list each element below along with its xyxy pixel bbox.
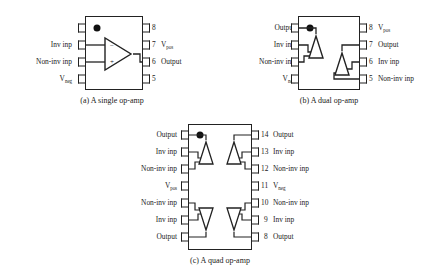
caption-quad: (c) A quad op-amp bbox=[190, 257, 250, 265]
pin-label-right-7: Vpos bbox=[161, 41, 173, 48]
pin-label-left-6: Inv inp bbox=[156, 216, 177, 223]
pin-number-right-8: 8 bbox=[264, 233, 268, 240]
pin-label-right-11: Vneg bbox=[273, 182, 285, 189]
orientation-dot-icon bbox=[307, 25, 314, 32]
pin-tab-3 bbox=[78, 58, 85, 67]
pin-tab-10 bbox=[252, 199, 259, 208]
pin-tab-8 bbox=[252, 233, 259, 242]
pin-number-right-8: 8 bbox=[369, 24, 373, 31]
pin-label-left-4: Vneg bbox=[60, 75, 72, 82]
pin-number-right-14: 14 bbox=[261, 131, 268, 138]
pin-tab-8 bbox=[143, 24, 150, 33]
pin-tab-2 bbox=[291, 41, 298, 50]
pin-label-right-5: Non-inv inp bbox=[378, 75, 414, 82]
pin-tab-2 bbox=[78, 41, 85, 50]
caption-single: (a) A single op-amp bbox=[80, 97, 143, 105]
pin-label-left-2: Inv inp bbox=[156, 148, 177, 155]
pin-tab-9 bbox=[252, 216, 259, 225]
pin-label-right-6: Inv inp bbox=[378, 58, 399, 65]
pin-label-right-6: Output bbox=[161, 58, 182, 65]
pin-label-left-3: Non-inv inp bbox=[259, 58, 295, 65]
pin-number-right-10: 10 bbox=[261, 199, 268, 206]
chip-body bbox=[188, 124, 252, 250]
pin-tab-13 bbox=[252, 148, 259, 157]
orientation-dot-icon bbox=[94, 25, 101, 32]
pin-number-right-5: 5 bbox=[369, 75, 373, 82]
pin-label-right-13: Inv inp bbox=[273, 148, 294, 155]
pin-number-right-7: 7 bbox=[152, 41, 156, 48]
pin-label-left-1: Output bbox=[156, 131, 177, 138]
pin-label-right-14: Output bbox=[273, 131, 294, 138]
pin-tab-3 bbox=[291, 58, 298, 67]
pin-tab-7 bbox=[143, 41, 150, 50]
pin-label-right-7: Output bbox=[378, 41, 399, 48]
package-dual-op-amp: Output Inv inp Non-inv inp Vneg 1 2 3 4 … bbox=[215, 0, 429, 110]
pin-tab-6 bbox=[360, 58, 367, 67]
pin-label-left-2: Inv inp bbox=[51, 41, 72, 48]
pin-number-right-5: 5 bbox=[152, 75, 156, 82]
pin-tab-11 bbox=[252, 182, 259, 191]
pin-label-left-5: Non-inv inp bbox=[141, 199, 177, 206]
pin-label-right-8: Vpos bbox=[378, 24, 390, 31]
pin-tab-12 bbox=[252, 165, 259, 174]
pin-tab-7 bbox=[181, 233, 188, 242]
pin-tab-5 bbox=[143, 75, 150, 84]
pin-tab-3 bbox=[181, 165, 188, 174]
pin-number-right-9: 9 bbox=[264, 216, 268, 223]
pin-tab-6 bbox=[143, 58, 150, 67]
package-single-op-amp: Inv inp Non-inv inp Vneg 1 2 3 4 − + 8 7… bbox=[0, 0, 215, 110]
pin-label-right-9: Inv inp bbox=[273, 216, 294, 223]
pin-tab-4 bbox=[181, 182, 188, 191]
pin-tab-2 bbox=[181, 148, 188, 157]
pin-tab-5 bbox=[181, 199, 188, 208]
pin-label-right-8: Output bbox=[273, 233, 294, 240]
pin-number-right-11: 11 bbox=[261, 182, 268, 189]
pin-tab-6 bbox=[181, 216, 188, 225]
pin-label-left-3: Non-inv inp bbox=[141, 165, 177, 172]
pin-tab-1 bbox=[291, 24, 298, 33]
pin-label-left-7: Output bbox=[156, 233, 177, 240]
pin-tab-14 bbox=[252, 131, 259, 140]
pin-tab-1 bbox=[181, 131, 188, 140]
pin-tab-5 bbox=[360, 75, 367, 84]
caption-dual: (b) A dual op-amp bbox=[300, 97, 358, 105]
pin-number-right-7: 7 bbox=[369, 41, 373, 48]
pin-number-right-13: 13 bbox=[261, 148, 268, 155]
orientation-dot-icon bbox=[197, 132, 204, 139]
pin-number-right-6: 6 bbox=[152, 58, 156, 65]
pin-tab-8 bbox=[360, 24, 367, 33]
pin-label-left-3: Non-inv inp bbox=[36, 58, 72, 65]
pin-tab-1 bbox=[78, 24, 85, 33]
pin-label-right-12: Non-inv inp bbox=[273, 165, 309, 172]
pin-tab-4 bbox=[291, 75, 298, 84]
pin-number-right-8: 8 bbox=[152, 24, 156, 31]
pin-label-left-4: Vpos bbox=[165, 182, 177, 189]
pin-label-right-10: Non-inv inp bbox=[273, 199, 309, 206]
pin-tab-4 bbox=[78, 75, 85, 84]
pin-number-right-6: 6 bbox=[369, 58, 373, 65]
pin-number-right-12: 12 bbox=[261, 165, 268, 172]
package-quad-op-amp: Output Inv inp Non-inv inp Vpos Non-inv … bbox=[100, 110, 340, 267]
pin-tab-7 bbox=[360, 41, 367, 50]
